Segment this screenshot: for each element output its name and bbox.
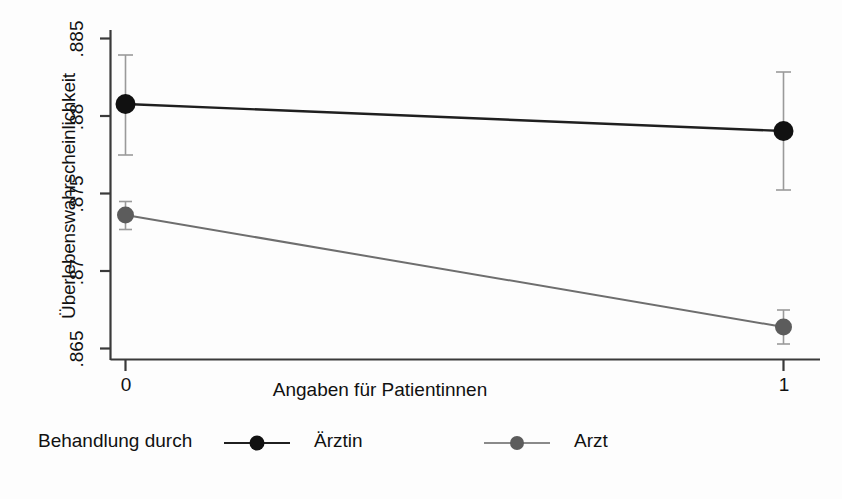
y-tick-label-865: .865 (66, 319, 88, 379)
series-aerztin-line (126, 104, 784, 131)
series-aerztin-errorbars (118, 55, 791, 190)
data-point-arzt-1 (775, 319, 792, 336)
legend-key-aerztin (222, 430, 292, 456)
legend-title: Behandlung durch (38, 430, 192, 452)
series-aerztin (116, 55, 794, 190)
y-tick-label-88: .88 (66, 87, 88, 147)
series-arzt-line (126, 215, 784, 327)
chart-legend: Behandlung durch Ärztin Arzt (0, 418, 842, 474)
series-arzt-errorbars (119, 202, 790, 345)
x-tick-marks (126, 360, 784, 371)
plot-figure: Überlebenswahrscheinlichkeit .885 .88 .8… (0, 0, 842, 410)
legend-key-arzt (482, 430, 552, 456)
x-tick-label-1: 1 (764, 374, 804, 396)
data-point-aerztin-1 (774, 121, 794, 141)
x-axis-title: Angaben für Patientinnen (170, 379, 590, 401)
chart-canvas (0, 0, 842, 410)
y-tick-marks (100, 39, 111, 349)
axis-spines (111, 30, 821, 360)
y-tick-label-875: .875 (66, 164, 88, 224)
data-point-arzt-0 (117, 207, 134, 224)
data-point-aerztin-0 (116, 94, 136, 114)
y-tick-label-885: .885 (66, 9, 88, 69)
legend-label-arzt: Arzt (574, 430, 608, 452)
legend-label-aerztin: Ärztin (314, 430, 363, 452)
x-tick-label-0: 0 (106, 374, 146, 396)
y-tick-label-87: .87 (66, 242, 88, 302)
chart-page: Überlebenswahrscheinlichkeit .885 .88 .8… (0, 0, 842, 499)
series-arzt (117, 202, 792, 345)
